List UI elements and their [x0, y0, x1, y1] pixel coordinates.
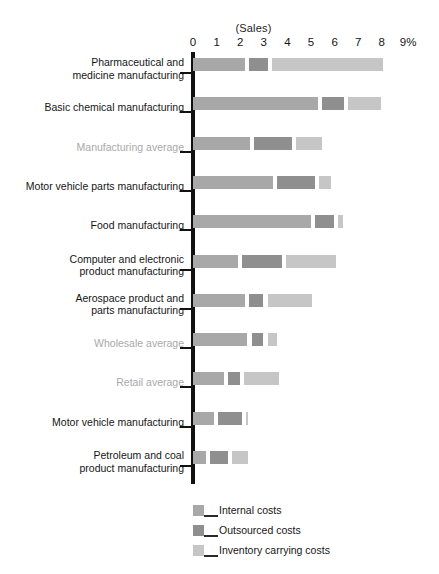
bar-segment-outsourced-costs [249, 58, 268, 71]
bar-segment-inventory-carrying-costs [338, 215, 343, 228]
bar-segment-outsourced-costs [228, 372, 240, 385]
chart-row: Pharmaceutical and medicine manufacturin… [0, 56, 439, 94]
category-label: Wholesale average [4, 337, 184, 350]
y-axis-tick-mark [180, 72, 191, 74]
bar-segment-outsourced-costs [315, 215, 334, 228]
x-tick-label-7: 7 [355, 36, 361, 48]
legend-item: Internal costs [193, 500, 433, 520]
y-axis-tick-mark [180, 308, 191, 310]
legend-swatch-icon [193, 505, 204, 516]
x-tick-label-8: 8 [379, 36, 385, 48]
chart-row: Manufacturing average [0, 135, 439, 173]
legend-swatch-icon [193, 525, 204, 536]
category-label: Aerospace product and parts manufacturin… [4, 292, 184, 317]
bar-segment-outsourced-costs [218, 412, 242, 425]
bar-segment-outsourced-costs [242, 255, 282, 268]
y-axis-tick-mark [180, 269, 191, 271]
y-axis-tick-mark [180, 426, 191, 428]
bar-segment-inventory-carrying-costs [319, 176, 331, 189]
category-label: Basic chemical manufacturing [4, 101, 184, 114]
plot-area: Pharmaceutical and medicine manufacturin… [0, 52, 439, 488]
bar-segment-internal-costs [193, 333, 247, 346]
chart-row: Basic chemical manufacturing [0, 95, 439, 133]
y-axis-tick-mark [180, 229, 191, 231]
category-label: Manufacturing average [4, 141, 184, 154]
chart-row: Motor vehicle parts manufacturing [0, 174, 439, 212]
bar-segment-inventory-carrying-costs [246, 412, 248, 425]
bar-segment-inventory-carrying-costs [232, 451, 247, 464]
category-label: Food manufacturing [4, 219, 184, 232]
x-tick-label-5: 5 [308, 36, 314, 48]
legend-leader-line [204, 535, 218, 537]
bar-segment-outsourced-costs [277, 176, 315, 189]
x-tick-label-1: 1 [213, 36, 219, 48]
category-label: Motor vehicle manufacturing [4, 416, 184, 429]
bar-segment-internal-costs [193, 176, 273, 189]
bar-segment-outsourced-costs [210, 451, 228, 464]
x-tick-label-4: 4 [284, 36, 290, 48]
category-label: Motor vehicle parts manufacturing [4, 180, 184, 193]
chart-row: Motor vehicle manufacturing [0, 410, 439, 448]
legend-leader-line [204, 515, 218, 517]
category-label: Pharmaceutical and medicine manufacturin… [4, 56, 184, 81]
bar-segment-internal-costs [193, 215, 311, 228]
legend-label: Internal costs [219, 504, 281, 516]
x-tick-label-6: 6 [331, 36, 337, 48]
chart-legend: Internal costsOutsourced costsInventory … [193, 500, 433, 560]
bar-segment-outsourced-costs [254, 137, 292, 150]
bar-segment-inventory-carrying-costs [272, 58, 383, 71]
legend-label: Inventory carrying costs [219, 544, 330, 556]
bar-segment-internal-costs [193, 294, 245, 307]
legend-item: Outsourced costs [193, 520, 433, 540]
bar-segment-inventory-carrying-costs [268, 294, 313, 307]
bar-segment-outsourced-costs [252, 333, 264, 346]
bar-segment-internal-costs [193, 412, 214, 425]
chart-row: Food manufacturing [0, 213, 439, 251]
supply-chain-cost-chart: (Sales) 0123456789% Pharmaceutical and m… [0, 0, 439, 574]
category-label: Petroleum and coal product manufacturing [4, 449, 184, 474]
bar-segment-inventory-carrying-costs [348, 97, 381, 110]
bar-segment-outsourced-costs [249, 294, 263, 307]
bar-segment-internal-costs [193, 255, 238, 268]
y-axis-tick-mark [180, 190, 191, 192]
x-tick-label-3: 3 [261, 36, 267, 48]
legend-leader-line [204, 555, 218, 557]
x-tick-label-9: 9% [400, 36, 417, 48]
chart-title: (Sales) [0, 22, 439, 34]
bar-segment-internal-costs [193, 58, 245, 71]
legend-swatch-icon [193, 545, 204, 556]
y-axis-tick-mark [180, 465, 191, 467]
category-label: Retail average [4, 376, 184, 389]
y-axis-tick-mark [180, 151, 191, 153]
y-axis-tick-mark [180, 386, 191, 388]
bar-segment-inventory-carrying-costs [244, 372, 279, 385]
chart-row: Petroleum and coal product manufacturing [0, 449, 439, 487]
chart-row: Retail average [0, 370, 439, 408]
bar-segment-inventory-carrying-costs [286, 255, 336, 268]
chart-row: Wholesale average [0, 331, 439, 369]
category-label: Computer and electronic product manufact… [4, 253, 184, 278]
bar-segment-internal-costs [193, 372, 224, 385]
y-axis-tick-mark [180, 111, 191, 113]
bar-segment-internal-costs [193, 97, 318, 110]
y-axis-tick-mark [180, 347, 191, 349]
legend-item: Inventory carrying costs [193, 540, 433, 560]
bar-segment-internal-costs [193, 451, 206, 464]
legend-label: Outsourced costs [219, 524, 301, 536]
bar-segment-inventory-carrying-costs [296, 137, 322, 150]
chart-row: Computer and electronic product manufact… [0, 253, 439, 291]
x-tick-label-2: 2 [237, 36, 243, 48]
bar-segment-inventory-carrying-costs [268, 333, 277, 346]
bar-segment-outsourced-costs [322, 97, 343, 110]
x-tick-label-0: 0 [190, 36, 196, 48]
bar-segment-internal-costs [193, 137, 250, 150]
chart-row: Aerospace product and parts manufacturin… [0, 292, 439, 330]
